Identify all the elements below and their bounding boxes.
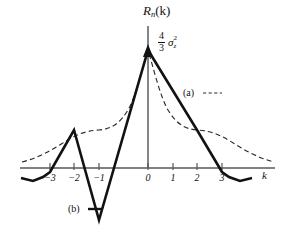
fraction-four-thirds: 4 3	[158, 31, 165, 53]
tick-label-pos3: 3	[220, 173, 225, 183]
plot-canvas	[0, 0, 286, 238]
x-axis-label: k	[262, 170, 267, 181]
tick-label-neg2: −2	[68, 173, 80, 183]
legend-item-b: (b)	[68, 204, 80, 214]
fraction-denominator: 3	[158, 43, 165, 54]
sigma-subscript: z	[173, 43, 176, 50]
title-symbol: R	[143, 3, 151, 18]
x-axis-ticks	[50, 163, 222, 170]
peak-amplitude-label: 4 3 σ2z	[158, 31, 173, 53]
sigma-symbol: σ2z	[168, 37, 173, 48]
tick-label-neg3: −3	[44, 173, 56, 183]
tick-label-pos2: 2	[195, 173, 200, 183]
peak-arrowhead-icon	[143, 44, 153, 57]
figure-root: Rn(k) 4 3 σ2z −3 −2 −1 0 1 2 3 k (a) (b)	[0, 0, 286, 238]
title-argument: (k)	[155, 3, 170, 18]
tick-label-zero: 0	[146, 173, 151, 183]
legend-item-a: (a)	[183, 88, 194, 98]
sigma-exponent: 2	[173, 35, 177, 42]
page-title: Rn(k)	[143, 4, 170, 19]
fraction-numerator: 4	[158, 31, 165, 43]
tick-label-neg1: −1	[93, 173, 105, 183]
tick-label-pos1: 1	[171, 173, 176, 183]
